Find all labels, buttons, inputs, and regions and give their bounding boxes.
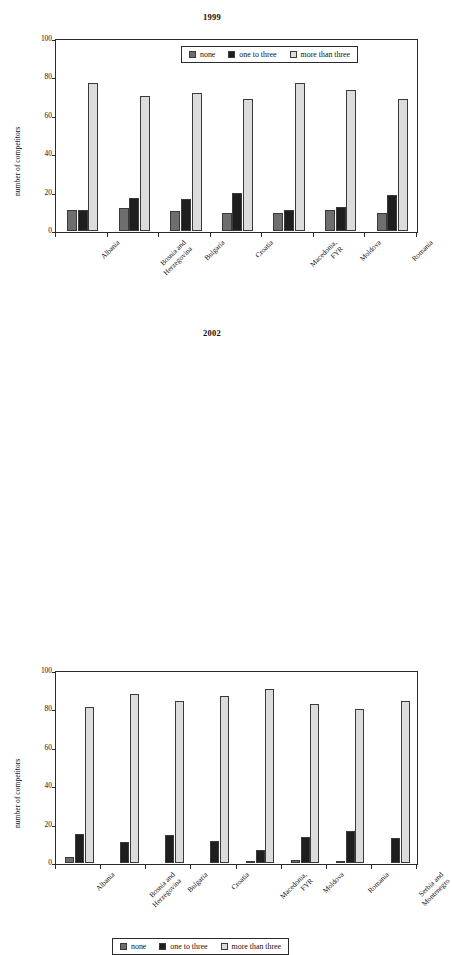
x-axis-category-label: Moldova	[321, 870, 346, 895]
x-tick-mark	[261, 233, 262, 237]
x-axis-category-label-line: Croatia	[253, 238, 275, 260]
x-tick-mark	[145, 865, 146, 869]
bar-more_than_three	[220, 696, 229, 863]
bar-more_than_three	[398, 99, 408, 231]
y-tick-label: 100	[24, 667, 52, 674]
x-axis-category-label: Croatia	[229, 870, 251, 892]
bar-more_than_three	[85, 707, 94, 863]
x-axis-category-label: Albania	[99, 238, 122, 261]
x-axis-category-label-line: Albania	[94, 870, 117, 893]
y-tick-label: 80	[24, 73, 52, 80]
bar-more_than_three	[295, 83, 305, 231]
x-tick-mark	[158, 233, 159, 237]
x-axis-category-label-line: Albania	[99, 238, 122, 261]
bar-group	[315, 41, 367, 231]
y-tick-label: 0	[24, 859, 52, 866]
legend-item-none: none	[120, 942, 146, 951]
plot-area-2002	[55, 671, 418, 865]
y-tick-label: 100	[24, 35, 52, 42]
x-axis-category-label-line: Moldova	[321, 870, 346, 895]
legend-label: more than three	[232, 942, 282, 951]
chart-title-1999: 1999	[0, 12, 424, 22]
bar-more_than_three	[401, 701, 410, 863]
bar-none	[377, 213, 387, 231]
bar-group	[373, 673, 418, 863]
x-axis-category-label: Bulgaria	[203, 238, 227, 262]
bar-more_than_three	[130, 694, 139, 863]
y-tick-label: 0	[24, 227, 52, 234]
legend-item-more_than_three: more than three	[221, 942, 282, 951]
x-tick-mark	[107, 233, 108, 237]
bar-more_than_three	[140, 96, 150, 231]
legend-swatch-none	[120, 943, 127, 950]
x-axis-labels-1999: AlbaniaBosnia andHerzegovinaBulgariaCroa…	[55, 238, 418, 322]
bar-more_than_three	[88, 83, 98, 231]
bar-none	[170, 211, 180, 231]
bar-more_than_three	[243, 99, 253, 231]
bar-none	[325, 210, 335, 231]
bar-one_to_three	[210, 841, 219, 863]
bar-group	[109, 41, 161, 231]
bar-more_than_three	[175, 701, 184, 863]
bar-group	[102, 673, 147, 863]
x-axis-category-label-line: Moldova	[358, 238, 383, 263]
x-axis-category-label: Macedonia,FYR	[278, 870, 315, 907]
bar-group	[160, 41, 212, 231]
legend-1999: noneone to threemore than three	[181, 46, 358, 63]
legend-label: one to three	[170, 942, 207, 951]
x-tick-mark	[371, 865, 372, 869]
legend-label: none	[131, 942, 146, 951]
legend-swatch-more_than_three	[290, 51, 297, 58]
bar-group	[283, 673, 328, 863]
x-tick-mark	[416, 233, 417, 237]
bar-one_to_three	[75, 834, 84, 863]
x-axis-category-label: Bosnia andHerzegovina	[144, 870, 183, 909]
legend-label: more than three	[301, 50, 351, 59]
x-axis-category-label-line: Romania	[366, 870, 391, 895]
x-axis-category-label-line: Romania	[409, 238, 434, 263]
x-axis-category-label: Moldova	[358, 238, 383, 263]
x-axis-category-label: Romania	[366, 870, 391, 895]
bar-one_to_three	[284, 210, 294, 231]
y-tick-label: 80	[24, 705, 52, 712]
x-tick-mark	[364, 233, 365, 237]
bar-one_to_three	[232, 193, 242, 231]
bar-group	[57, 41, 109, 231]
bar-none	[336, 861, 345, 863]
bar-one_to_three	[120, 842, 129, 863]
x-axis-category-label-line: Bulgaria	[203, 238, 227, 262]
bar-group	[238, 673, 283, 863]
chart-1999: 1999 number of competitors 020406080100 …	[0, 0, 424, 320]
bar-none	[222, 213, 232, 231]
legend-label: none	[200, 50, 215, 59]
legend-swatch-none	[189, 51, 196, 58]
bar-group	[366, 41, 418, 231]
bar-none	[246, 861, 255, 863]
bar-none	[67, 210, 77, 231]
x-axis-category-label: Albania	[94, 870, 117, 893]
y-tick-label: 60	[24, 112, 52, 119]
x-axis-category-label: Croatia	[253, 238, 275, 260]
bar-one_to_three	[301, 837, 310, 863]
bar-one_to_three	[387, 195, 397, 231]
bar-more_than_three	[346, 90, 356, 231]
x-axis-category-label: Bulgaria	[185, 870, 209, 894]
legend-item-one_to_three: one to three	[159, 942, 207, 951]
bar-more_than_three	[192, 93, 202, 231]
bar-more_than_three	[355, 709, 364, 863]
bar-none	[273, 213, 283, 231]
legend-label: one to three	[239, 50, 276, 59]
bar-none	[119, 208, 129, 231]
x-tick-mark	[210, 233, 211, 237]
bar-group	[263, 41, 315, 231]
y-tick-label: 60	[24, 744, 52, 751]
plot-area-1999	[55, 39, 418, 233]
bar-none	[65, 857, 74, 863]
y-tick-label: 20	[24, 821, 52, 828]
bar-more_than_three	[265, 689, 274, 863]
x-tick-mark	[416, 865, 417, 869]
bar-one_to_three	[165, 835, 174, 863]
chart-2002: 2002 number of competitors 020406080100 …	[0, 320, 424, 640]
legend-swatch-one_to_three	[159, 943, 166, 950]
chart-title-2002: 2002	[0, 328, 424, 338]
